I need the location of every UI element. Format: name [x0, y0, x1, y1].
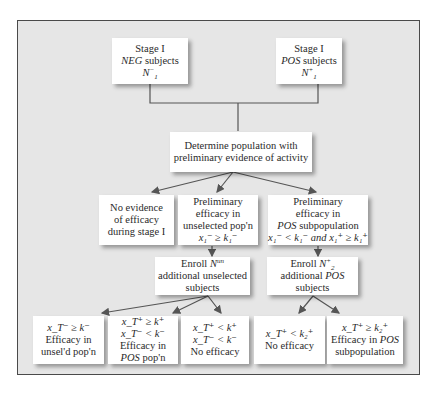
label: Stage I [294, 43, 323, 55]
label: subjects [186, 282, 220, 294]
label: No evidence [110, 202, 163, 214]
condition-formula: x_T⁺ ≥ k₂⁺ [342, 322, 388, 334]
label: unselected pop'n [183, 220, 253, 232]
outcome-pos-pop-efficacy-box: x_T⁺ ≥ k⁺ x_T⁻ < k⁻ Efficacy in POS pop'… [108, 316, 178, 364]
formula: N [210, 258, 217, 269]
stage1-pos-box: Stage I POS subjects N+1 [276, 38, 342, 84]
label: POS [277, 220, 296, 231]
label: unsel'd pop'n [41, 346, 96, 358]
label: subjects [142, 55, 178, 66]
formula: N+1 [301, 67, 316, 79]
condition-formula: x_T⁻ < k⁻ [121, 328, 165, 340]
label: NEG [121, 55, 142, 66]
label: POS [121, 352, 140, 363]
label: during stage I [108, 226, 166, 238]
outcome-no-efficacy-1-box: x_T⁺ < k⁺ x_T⁻ < k⁻ No efficacy [181, 316, 249, 364]
label: efficacy in [196, 208, 240, 220]
prelim-unselected-box: Preliminary efficacy in unselected pop'n… [178, 195, 258, 245]
label: POS [380, 334, 399, 345]
label: Efficacy in [331, 334, 380, 345]
enroll-pos-box: Enroll N+2 additional POS subjects [267, 257, 358, 295]
enroll-unselected-box: Enroll Nun additional unselected subject… [155, 257, 250, 295]
label: subjects [300, 55, 336, 66]
outcome-unselected-efficacy-box: x_T⁻ ≥ k⁻ Efficacy in unsel'd pop'n [33, 316, 104, 364]
no-evidence-box: No evidence of efficacy during stage I [99, 195, 174, 245]
label: Determine population with [184, 140, 297, 152]
prelim-pos-box: Preliminary efficacy in POS subpopulatio… [268, 195, 368, 245]
condition-formula: x₁⁻ < k₁⁻ and x₁⁺ ≥ k₁⁺ [268, 232, 368, 244]
formula: N−1 [142, 67, 157, 79]
label: pop'n [140, 352, 166, 363]
label: POS [325, 270, 344, 281]
label: Efficacy in [120, 340, 166, 352]
label: Enroll [181, 258, 210, 269]
condition-formula: x₁⁻ ≥ k₁⁻ [199, 232, 238, 244]
outcome-no-efficacy-2-box: x_T⁺ < k₂⁺ No efficacy [254, 316, 325, 364]
outcome-pos-subpop-efficacy-box: x_T⁺ ≥ k₂⁺ Efficacy in POS subpopulation [327, 316, 403, 364]
label: No efficacy [265, 340, 314, 352]
label: additional [281, 270, 326, 281]
label: additional unselected [158, 270, 247, 282]
label: Stage I [135, 43, 164, 55]
condition-formula: x_T⁺ ≥ k⁺ [122, 316, 165, 328]
label: Enroll [290, 258, 319, 269]
condition-formula: x_T⁺ < k₂⁺ [266, 328, 313, 340]
label: efficacy in [296, 208, 340, 220]
determine-population-box: Determine population with preliminary ev… [170, 132, 312, 172]
label: Preliminary [193, 196, 243, 208]
condition-formula: x_T⁻ ≥ k⁻ [47, 322, 90, 334]
label: Preliminary [293, 196, 343, 208]
condition-formula: x_T⁻ < k⁻ [193, 334, 237, 346]
label: of efficacy [114, 214, 159, 226]
label: POS [281, 55, 300, 66]
condition-formula: x_T⁺ < k⁺ [193, 322, 237, 334]
label: preliminary evidence of activity [174, 152, 308, 164]
label: subpopulation [297, 220, 359, 231]
stage1-neg-box: Stage I NEG subjects N−1 [112, 38, 188, 84]
label: No efficacy [190, 346, 239, 358]
label: Efficacy in [45, 334, 91, 346]
label: subjects [296, 282, 330, 294]
label: subpopulation [335, 346, 395, 358]
